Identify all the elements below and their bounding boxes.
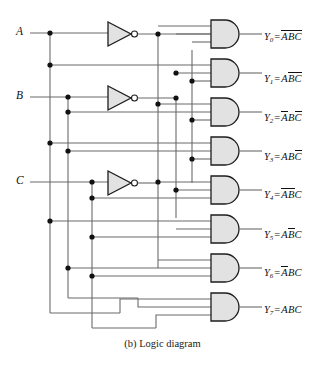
output-y2-term-2: C <box>295 111 302 123</box>
output-y2-term-0: A <box>281 111 288 123</box>
output-y7-term-2: C <box>295 304 302 315</box>
output-y1-term-1: B <box>288 72 295 84</box>
output-y0-term-1: B <box>288 30 295 42</box>
input-label-c: C <box>16 174 24 186</box>
output-y0: Y0=ABC <box>264 30 302 44</box>
and-gate-y3 <box>211 137 262 165</box>
output-y7: Y7=ABC <box>264 305 302 317</box>
junction-dots <box>47 30 194 278</box>
and-gate-y2 <box>211 98 262 126</box>
output-y5-term-2: C <box>295 229 302 240</box>
output-y3-term-1: B <box>288 151 295 162</box>
and-gate-y5 <box>211 215 262 243</box>
output-y4-term-0: A <box>281 188 288 200</box>
output-y3-term-2: C <box>295 150 302 162</box>
output-y3-term-0: A <box>281 151 288 162</box>
output-y0-term-2: C <box>295 30 302 42</box>
gate-input-wires <box>50 26 211 328</box>
inverter-c <box>108 171 160 195</box>
and-gate-y4 <box>211 176 262 204</box>
and-gate-y1 <box>211 59 262 87</box>
output-y5-term-0: A <box>281 229 288 240</box>
output-y1-term-2: C <box>295 72 302 84</box>
input-wires <box>30 33 112 182</box>
output-y7-term-1: B <box>288 304 295 315</box>
output-y2-term-1: B <box>288 112 295 123</box>
output-y2: Y2=ABC <box>264 111 302 125</box>
output-y7-term-0: A <box>281 304 288 315</box>
output-y6-term-1: B <box>288 267 295 278</box>
and-gate-y6 <box>211 254 262 282</box>
output-y1-term-0: A <box>281 73 288 84</box>
input-label-a: A <box>16 25 23 37</box>
output-y0-term-0: A <box>281 30 288 42</box>
bus-verticals <box>50 33 92 328</box>
output-y5-term-1: B <box>288 228 295 240</box>
output-y6-term-2: C <box>295 267 302 278</box>
output-y4: Y4=ABC <box>264 188 302 202</box>
inverter-b <box>108 86 176 110</box>
output-y5: Y5=ABC <box>264 228 302 242</box>
and-gate-y0 <box>211 20 262 48</box>
output-y6: Y6=ABC <box>264 266 302 280</box>
output-y1: Y1=ABC <box>264 72 302 86</box>
output-y3: Y3=ABC <box>264 150 302 164</box>
output-y4-term-1: B <box>288 188 295 200</box>
and-gate-y7 <box>211 293 262 321</box>
figure-caption: (b) Logic diagram <box>0 338 325 349</box>
input-label-b: B <box>16 89 23 101</box>
logic-diagram-figure: A B C Y0=ABCY1=ABCY2=ABCY3=ABCY4=ABCY5=A… <box>0 0 325 366</box>
output-y6-term-0: A <box>281 266 288 278</box>
output-y4-term-2: C <box>295 189 302 200</box>
